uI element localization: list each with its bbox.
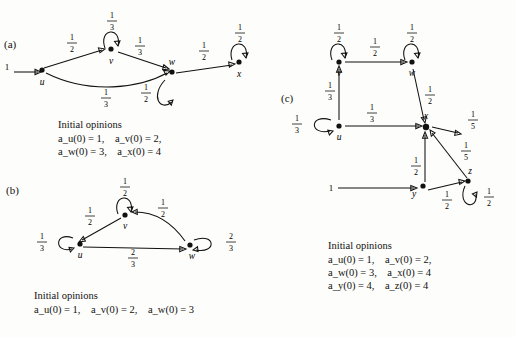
weight-w-self-c-den: 2 [410, 35, 414, 44]
node-z-c-label: z [467, 166, 472, 176]
weight-u-v-c: 1 3 [325, 81, 335, 102]
edge-v-self-c [331, 44, 346, 60]
node-y-c [420, 183, 425, 188]
weight-z-x-c-den: 5 [464, 153, 468, 162]
weight-w-x-c-num: 1 [428, 85, 432, 94]
weight-y-z-c: 1 2 [442, 190, 452, 211]
weight-u-x-c-num: 1 [370, 103, 374, 112]
weight-v-self-c-num: 1 [337, 23, 341, 32]
panel-c-caption-line-1: a_u(0) = 1, a_v(0) = 2, [328, 253, 431, 266]
arrowhead-w-self-c [415, 53, 421, 58]
weight-u-v-c-den: 3 [328, 93, 332, 102]
weight-u-self-c: 1 3 [292, 114, 302, 135]
weight-z-self-c: 1 2 [484, 187, 494, 208]
node-w-c [409, 59, 414, 64]
panel-c-input-label-y: 1 [329, 183, 334, 193]
arrowhead-u-self-c [328, 130, 333, 135]
weight-w-self-c-num: 1 [410, 23, 414, 32]
weight-u-x-c-den: 3 [370, 115, 374, 124]
weight-u-self-c-num: 1 [295, 114, 299, 123]
weight-z-x-c-num: 1 [464, 141, 468, 150]
weight-u-x-c: 1 3 [367, 103, 377, 124]
edge-y-z-c [428, 182, 462, 190]
figure-page: (a) 1 3 1 1 2 1 3 [0, 0, 516, 337]
node-v-c [336, 59, 341, 64]
weight-v-w-c-den: 2 [373, 49, 377, 58]
node-u-c-label: u [337, 132, 342, 142]
arrowhead-v-self-c [342, 53, 348, 58]
edge-u-self-c [314, 119, 331, 132]
node-u-c [336, 123, 341, 128]
weight-y-z-c-den: 2 [445, 202, 449, 211]
node-x-c-label: x [423, 111, 429, 121]
weight-y-z-c-num: 1 [445, 190, 449, 199]
weight-z-self-c-den: 2 [487, 199, 491, 208]
node-x-c [423, 124, 429, 130]
weight-y-x-c-den: 2 [414, 168, 418, 177]
node-y-c-label: y [411, 189, 417, 199]
panel-c-caption-title: Initial opinions [328, 239, 392, 252]
weight-w-x-c-den: 2 [428, 97, 432, 106]
weight-x-right-c: 1 5 [468, 110, 478, 131]
weight-u-self-c-den: 3 [295, 126, 299, 135]
weight-w-self-c: 1 2 [407, 23, 417, 44]
arrowhead-z-self-c [472, 192, 477, 197]
weight-z-x-c: 1 5 [461, 141, 471, 162]
weight-v-self-c-den: 2 [337, 35, 341, 44]
panel-c-caption-line-3: a_y(0) = 4, a_z(0) = 4 [328, 279, 428, 292]
panel-c-graph: 1 2 1 2 1 2 1 3 1 [0, 0, 516, 337]
weight-v-w-c: 1 2 [370, 37, 380, 58]
edge-x-right-c [432, 127, 458, 133]
node-w-c-label: w [409, 68, 416, 78]
edge-w-self-c [404, 44, 419, 60]
weight-z-self-c-num: 1 [487, 187, 491, 196]
weight-u-v-c-num: 1 [328, 81, 332, 90]
edge-z-x-c [432, 133, 467, 178]
weight-w-x-c: 1 2 [425, 85, 435, 106]
weight-y-x-c: 1 2 [411, 156, 421, 177]
weight-y-x-c-num: 1 [414, 156, 418, 165]
node-v-c-label: v [337, 68, 342, 78]
panel-c-caption-line-2: a_w(0) = 3, a_x(0) = 4 [328, 266, 431, 279]
weight-x-right-c-num: 1 [471, 110, 475, 119]
weight-v-w-c-num: 1 [373, 37, 377, 46]
weight-v-self-c: 1 2 [334, 23, 344, 44]
node-z-c [465, 178, 470, 183]
weight-x-right-c-den: 5 [471, 122, 475, 131]
